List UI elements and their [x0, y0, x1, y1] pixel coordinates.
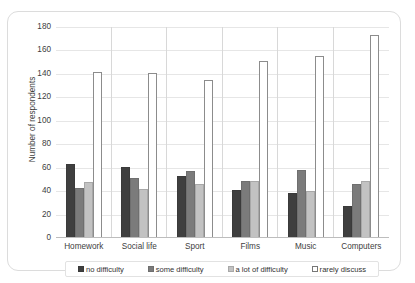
y-axis-tick-label: 40 — [42, 187, 51, 195]
bar-group — [167, 27, 223, 238]
x-axis-category-label: Films — [223, 242, 279, 256]
bar-group — [56, 27, 112, 238]
x-axis-category-label: Computers — [334, 242, 390, 256]
y-axis-title: Number of respondents — [28, 50, 37, 190]
bar — [204, 80, 213, 238]
bar — [186, 171, 195, 238]
bar — [288, 193, 297, 238]
bar — [352, 184, 361, 238]
bar — [232, 190, 241, 238]
bar-group — [112, 27, 168, 238]
bar — [241, 181, 250, 238]
plot-area: 180160140120100806040200 — [56, 27, 389, 238]
bar — [139, 189, 148, 238]
y-axis-tick-label: 20 — [42, 210, 51, 218]
bar-group — [278, 27, 334, 238]
legend-swatch-icon — [148, 266, 154, 272]
bar — [93, 72, 102, 238]
bar-group — [334, 27, 390, 238]
legend-item[interactable]: rarely discuss — [312, 265, 366, 274]
y-axis-tick-label: 120 — [37, 93, 51, 101]
bar — [297, 170, 306, 238]
legend-label: rarely discuss — [320, 265, 366, 274]
bar — [250, 181, 259, 238]
legend-label: a lot of difficulty — [236, 265, 288, 274]
legend-item[interactable]: no difficulty — [78, 265, 124, 274]
bar — [306, 191, 315, 238]
bar — [148, 73, 157, 238]
y-axis-tick-label: 160 — [37, 46, 51, 54]
chart-legend: no difficultysome difficultya lot of dif… — [65, 261, 379, 277]
y-axis-tick-label: 80 — [42, 140, 51, 148]
bar — [75, 188, 84, 238]
bar — [130, 178, 139, 238]
x-axis-category-label: Homework — [56, 242, 112, 256]
bar-group — [223, 27, 279, 238]
legend-item[interactable]: a lot of difficulty — [228, 265, 288, 274]
x-axis-category-label: Sport — [167, 242, 223, 256]
bar — [177, 176, 186, 238]
bar — [195, 184, 204, 238]
x-axis-category-label: Social life — [112, 242, 168, 256]
legend-swatch-icon — [228, 266, 234, 272]
chart-container: Number of respondents 180160140120100806… — [7, 11, 401, 271]
bar — [84, 182, 93, 238]
x-axis-line — [56, 237, 389, 238]
bar — [66, 164, 75, 238]
bar-groups — [56, 27, 389, 238]
bar — [343, 206, 352, 238]
bar — [370, 35, 379, 238]
y-axis-tick-label: 140 — [37, 70, 51, 78]
x-axis-category-labels: HomeworkSocial lifeSportFilmsMusicComput… — [56, 242, 389, 256]
bar — [361, 181, 370, 238]
y-axis-tick-label: 100 — [37, 117, 51, 125]
bar — [259, 61, 268, 238]
x-axis-category-label: Music — [278, 242, 334, 256]
legend-swatch-icon — [78, 266, 84, 272]
legend-item[interactable]: some difficulty — [148, 265, 204, 274]
y-axis-tick-label: 0 — [46, 234, 51, 242]
legend-label: no difficulty — [86, 265, 124, 274]
legend-swatch-icon — [312, 266, 318, 272]
y-axis-tick-label: 180 — [37, 23, 51, 31]
bar — [121, 167, 130, 239]
bar — [315, 56, 324, 238]
y-axis-tick-label: 60 — [42, 164, 51, 172]
legend-label: some difficulty — [156, 265, 204, 274]
